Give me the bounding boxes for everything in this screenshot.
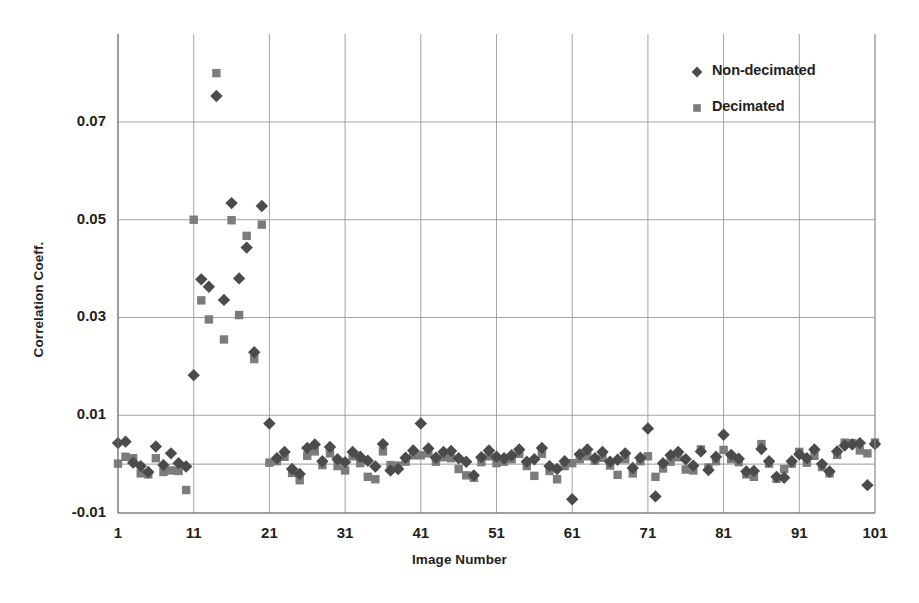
x-axis-title: Image Number [0, 552, 919, 567]
x-tick-label: 51 [467, 524, 527, 541]
chart-figure: Correlation Coeff. Image Number 0.070.05… [0, 0, 919, 603]
y-axis-title: Correlation Coeff. [31, 200, 46, 400]
y-tick-label: 0.07 [36, 112, 106, 129]
scatter-plot [0, 0, 919, 603]
x-tick-label: 71 [618, 524, 678, 541]
y-tick-label: 0.03 [36, 307, 106, 324]
x-tick-label: 11 [164, 524, 224, 541]
x-tick-label: 31 [315, 524, 375, 541]
y-tick-label: -0.01 [36, 503, 106, 520]
legend-square-icon [689, 100, 705, 116]
legend-label-decimated: Decimated [712, 98, 784, 114]
x-tick-label: 81 [694, 524, 754, 541]
x-tick-label: 101 [845, 524, 905, 541]
x-tick-label: 41 [391, 524, 451, 541]
y-tick-label: 0.05 [36, 210, 106, 227]
x-tick-label: 91 [769, 524, 829, 541]
x-tick-label: 61 [542, 524, 602, 541]
y-tick-label: 0.01 [36, 405, 106, 422]
legend-label-non-decimated: Non-decimated [712, 62, 815, 78]
legend-diamond-icon [689, 64, 705, 80]
x-tick-label: 21 [239, 524, 299, 541]
x-tick-label: 1 [88, 524, 148, 541]
